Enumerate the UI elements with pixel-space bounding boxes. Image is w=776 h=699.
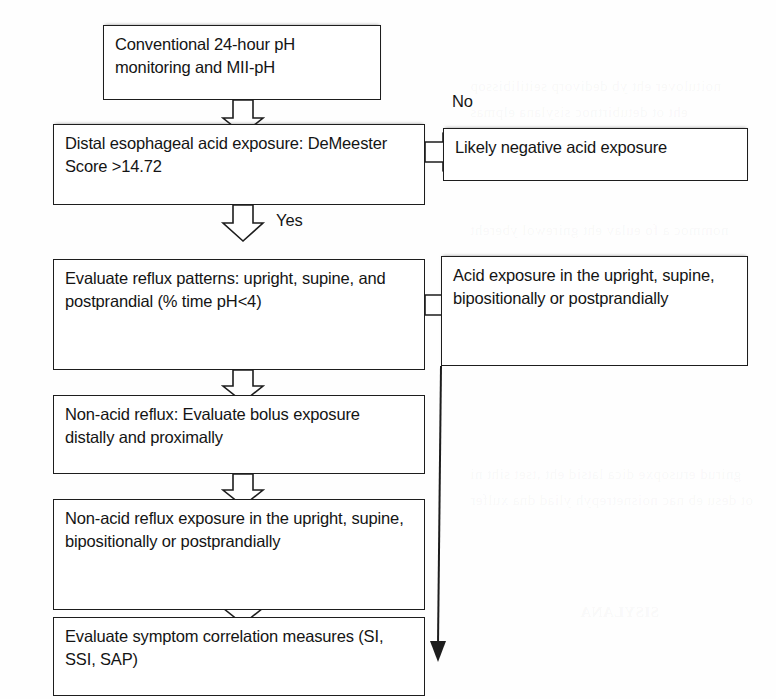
arrow-acid-exposure-to-symptom-correlation-head	[430, 641, 446, 662]
node-evaluate-symptom-correlation[interactable]: Evaluate symptom correlation measures (S…	[53, 617, 425, 696]
node-label: Evaluate reflux patterns: upright, supin…	[65, 269, 386, 310]
node-label: Non-acid reflux exposure in the upright,…	[65, 509, 404, 550]
node-label: Evaluate symptom correlation measures (S…	[65, 627, 383, 668]
node-evaluate-reflux-patterns[interactable]: Evaluate reflux patterns: upright, supin…	[53, 259, 425, 370]
arrow-decision-to-reflux-patterns	[223, 205, 263, 241]
node-acid-exposure-positions[interactable]: Acid exposure in the upright, supine, bi…	[441, 256, 748, 366]
edge-label-yes: Yes	[276, 211, 303, 230]
flowchart-canvas: noitulover eht yb dedivorp seitilibissop…	[0, 0, 776, 699]
node-label: Distal esophageal acid exposure: DeMeest…	[65, 134, 387, 175]
edge-label-no: No	[452, 92, 473, 111]
arrow-acid-exposure-to-symptom-correlation-line	[438, 366, 441, 645]
node-label: Non-acid reflux: Evaluate bolus exposure…	[65, 405, 360, 446]
node-label: Conventional 24-hour pH monitoring and M…	[115, 35, 295, 76]
node-likely-negative-acid-exposure[interactable]: Likely negative acid exposure	[443, 128, 748, 181]
node-label: Acid exposure in the upright, supine, bi…	[453, 266, 714, 307]
node-nonacid-reflux-exposure[interactable]: Non-acid reflux exposure in the upright,…	[53, 499, 425, 610]
node-distal-esophageal-acid-exposure[interactable]: Distal esophageal acid exposure: DeMeest…	[53, 124, 425, 205]
node-nonacid-reflux-bolus[interactable]: Non-acid reflux: Evaluate bolus exposure…	[53, 395, 425, 474]
node-conventional-ph-monitoring[interactable]: Conventional 24-hour pH monitoring and M…	[103, 25, 381, 100]
node-label: Likely negative acid exposure	[455, 138, 667, 156]
